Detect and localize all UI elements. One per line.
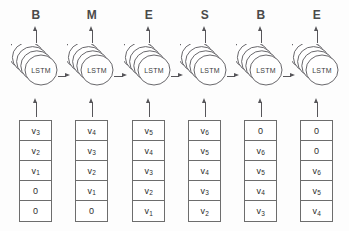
input-arrow-icon xyxy=(91,98,93,117)
arrow-head-icon xyxy=(89,26,93,31)
arrow-shaft xyxy=(149,102,150,117)
input-vector-value: 0 xyxy=(33,206,38,216)
input-vector-cell: v5 xyxy=(301,181,332,201)
input-vector-subscript: 6 xyxy=(205,129,209,136)
input-vector-cell: v3 xyxy=(189,181,220,201)
input-vector-cell: 0 xyxy=(20,181,51,201)
arrow-shaft xyxy=(317,102,318,117)
arrow-shaft xyxy=(261,30,262,43)
input-vector-subscript: 6 xyxy=(317,169,321,176)
output-arrow-icon xyxy=(204,26,206,43)
arrow-head-icon xyxy=(290,73,295,77)
input-vector-subscript: 5 xyxy=(205,149,209,156)
input-vector-subscript: 6 xyxy=(261,149,265,156)
input-arrow-icon xyxy=(260,98,262,117)
timestep-column: BLSTM0v6v5v4v3 xyxy=(233,0,289,231)
input-vector-cell: v2 xyxy=(76,161,107,181)
recurrent-arrow-icon xyxy=(227,75,239,77)
recurrent-arrow-icon xyxy=(114,75,127,77)
arrow-shaft xyxy=(36,102,37,117)
arrow-head-icon xyxy=(33,98,37,103)
output-arrow-icon xyxy=(148,26,150,43)
arrow-shaft xyxy=(149,30,150,43)
input-vector-cell: v1 xyxy=(133,201,164,221)
input-vector-value: 0 xyxy=(33,186,38,196)
input-vector-subscript: 1 xyxy=(36,169,40,176)
input-vector-cell: v6 xyxy=(189,121,220,141)
arrow-head-icon xyxy=(146,98,150,103)
arrow-head-icon xyxy=(234,73,239,77)
arrow-head-icon xyxy=(202,98,206,103)
input-vector-subscript: 5 xyxy=(317,189,321,196)
input-vector-cell: 0 xyxy=(245,121,276,141)
input-vector-subscript: 2 xyxy=(92,169,96,176)
input-vector-cell: v5 xyxy=(133,121,164,141)
lstm-cell-label: LSTM xyxy=(193,67,227,75)
input-vector-stack: v3v2v100 xyxy=(19,120,52,222)
input-vector-cell: v3 xyxy=(20,121,51,141)
input-vector-cell: v2 xyxy=(189,201,220,221)
arrow-head-icon xyxy=(122,73,127,77)
timestep-column: ELSTMv5v4v3v2v1 xyxy=(121,0,177,231)
output-tag-label: E xyxy=(121,8,177,22)
input-vector-stack: 0v6v5v4v3 xyxy=(244,120,277,222)
input-vector-subscript: 1 xyxy=(92,189,96,196)
input-vector-subscript: 4 xyxy=(92,129,96,136)
lstm-cell-label: LSTM xyxy=(24,67,58,75)
input-vector-subscript: 3 xyxy=(261,210,265,217)
arrow-shaft xyxy=(317,30,318,43)
output-arrow-icon xyxy=(316,26,318,43)
input-vector-subscript: 3 xyxy=(205,189,209,196)
input-vector-cell: 0 xyxy=(301,141,332,161)
recurrent-arrow-icon xyxy=(283,75,295,77)
arrow-head-icon xyxy=(202,26,206,31)
timestep-column: ELSTM00v6v5v4 xyxy=(289,0,345,231)
output-tag-label: B xyxy=(233,8,289,22)
input-vector-subscript: 4 xyxy=(261,189,265,196)
arrow-head-icon xyxy=(314,26,318,31)
arrow-shaft xyxy=(36,30,37,43)
output-tag-label: S xyxy=(177,8,233,22)
input-arrow-icon xyxy=(316,98,318,117)
recurrent-arrow-icon xyxy=(58,75,70,77)
input-vector-cell: 0 xyxy=(301,121,332,141)
input-vector-cell: v2 xyxy=(20,141,51,161)
input-vector-stack: v4v3v2v10 xyxy=(75,120,108,222)
input-vector-subscript: 5 xyxy=(261,169,265,176)
input-vector-value: 0 xyxy=(89,206,94,216)
input-vector-cell: v6 xyxy=(245,141,276,161)
lstm-sequence-diagram: BLSTMv3v2v100MLSTMv4v3v2v10ELSTMv5v4v3v2… xyxy=(0,0,349,231)
lstm-cell-label: LSTM xyxy=(305,67,339,75)
arrow-shaft xyxy=(205,102,206,117)
input-vector-cell: v6 xyxy=(301,161,332,181)
input-vector-subscript: 2 xyxy=(36,149,40,156)
lstm-cell-label: LSTM xyxy=(80,67,114,75)
arrow-shaft xyxy=(205,30,206,43)
timestep-column: BLSTMv3v2v100 xyxy=(8,0,64,231)
input-vector-cell: v5 xyxy=(245,161,276,181)
input-vector-cell: v4 xyxy=(301,201,332,221)
input-vector-stack: 00v6v5v4 xyxy=(300,120,333,222)
arrow-head-icon xyxy=(33,26,37,31)
input-vector-cell: v3 xyxy=(245,201,276,221)
input-vector-subscript: 4 xyxy=(317,210,321,217)
input-vector-cell: v1 xyxy=(76,181,107,201)
input-arrow-icon xyxy=(35,98,37,117)
output-tag-label: M xyxy=(64,8,120,22)
arrow-head-icon xyxy=(314,98,318,103)
input-vector-subscript: 2 xyxy=(149,189,153,196)
input-vector-cell: v4 xyxy=(189,161,220,181)
arrow-head-icon xyxy=(258,98,262,103)
arrow-head-icon xyxy=(258,26,262,31)
input-vector-cell: v5 xyxy=(189,141,220,161)
output-tag-label: E xyxy=(289,8,345,22)
input-vector-cell: v1 xyxy=(20,161,51,181)
input-arrow-icon xyxy=(148,98,150,117)
input-vector-stack: v6v5v4v3v2 xyxy=(188,120,221,222)
recurrent-arrow-icon xyxy=(171,75,183,77)
output-arrow-icon xyxy=(260,26,262,43)
input-vector-subscript: 2 xyxy=(205,210,209,217)
input-vector-subscript: 3 xyxy=(149,169,153,176)
input-vector-stack: v5v4v3v2v1 xyxy=(132,120,165,222)
input-vector-cell: v3 xyxy=(133,161,164,181)
